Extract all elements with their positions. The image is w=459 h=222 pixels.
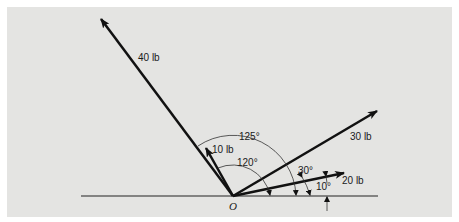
label-30lb: 30 lb: [350, 131, 372, 142]
label-angle-125: 125°: [239, 131, 260, 142]
label-20lb: 20 lb: [342, 175, 364, 186]
vector-40lb: [101, 19, 233, 196]
label-40lb: 40 lb: [138, 52, 160, 63]
label-angle-10: 10°: [316, 181, 331, 192]
label-angle-30: 30°: [298, 165, 313, 176]
vector-10lb: [206, 148, 233, 196]
label-10lb: 10 lb: [212, 144, 234, 155]
origin-label: O: [229, 200, 237, 212]
force-diagram: 40 lb 10 lb 30 lb 20 lb 125° 120° 30° 10…: [0, 0, 459, 222]
label-angle-120: 120°: [237, 157, 258, 168]
